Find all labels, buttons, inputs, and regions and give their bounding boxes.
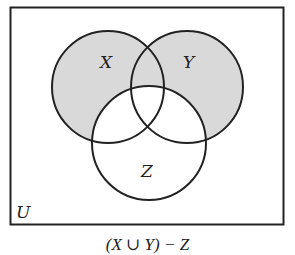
universe-label: U bbox=[16, 202, 31, 222]
set-x-label: X bbox=[98, 52, 113, 72]
universe-rectangle bbox=[11, 8, 284, 225]
set-y-label: Y bbox=[183, 52, 196, 72]
diagram-caption: (X ∪ Y) − Z bbox=[0, 234, 295, 255]
set-z-label: Z bbox=[140, 161, 154, 181]
